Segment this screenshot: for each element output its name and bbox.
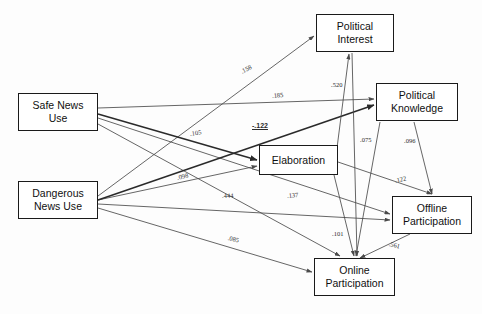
- edge-elaboration-to-interest: [337, 54, 349, 148]
- node-political-interest[interactable]: Political Interest: [316, 14, 394, 52]
- edge-label-safe-to-knowledge: .185: [272, 91, 284, 99]
- node-political-knowledge[interactable]: Political Knowledge: [376, 83, 458, 121]
- path-diagram-edges: [0, 0, 482, 314]
- node-dangerous-news-use[interactable]: Dangerous News Use: [18, 181, 98, 219]
- node-offline-participation[interactable]: Offline Participation: [392, 196, 472, 234]
- edge-label-knowledge-to-offline: .096: [404, 137, 415, 144]
- edge-label-safe-to-elaboration: -.122: [252, 122, 268, 129]
- path-diagram-figure: Safe News Use Dangerous News Use Politic…: [0, 0, 482, 314]
- edge-safe-to-offline: [98, 118, 390, 214]
- edge-safe-to-online: [98, 124, 340, 256]
- edge-label-interest-to-online: .520: [331, 81, 342, 88]
- edge-label-elaboration-to-online: .101: [332, 230, 343, 237]
- node-label: Political Interest: [335, 20, 375, 46]
- node-online-participation[interactable]: Online Participation: [314, 258, 395, 296]
- node-label: Online Participation: [323, 264, 385, 290]
- node-label: Offline Participation: [401, 202, 463, 228]
- edge-offline-to-online: [360, 234, 410, 258]
- edge-dangerous-to-offline: [98, 204, 390, 220]
- node-elaboration[interactable]: Elaboration: [259, 145, 338, 175]
- node-label: Elaboration: [270, 154, 327, 167]
- edge-interest-to-online: [352, 53, 357, 256]
- edge-knowledge-to-offline: [414, 122, 432, 194]
- edge-dangerous-to-online: [98, 208, 312, 272]
- node-safe-news-use[interactable]: Safe News Use: [18, 93, 98, 131]
- edge-safe-to-knowledge: [98, 99, 374, 108]
- edge-elaboration-to-offline: [338, 162, 432, 194]
- edge-label-elaboration-to-interest: .075: [360, 136, 371, 143]
- edge-elaboration-to-online: [334, 175, 354, 256]
- edge-label-dangerous-to-knowledge: .444: [222, 192, 234, 199]
- node-label: Political Knowledge: [389, 89, 445, 115]
- node-label: Safe News Use: [31, 99, 86, 125]
- edge-label-dangerous-to-offline: .137: [287, 191, 299, 199]
- node-label: Dangerous News Use: [30, 187, 86, 213]
